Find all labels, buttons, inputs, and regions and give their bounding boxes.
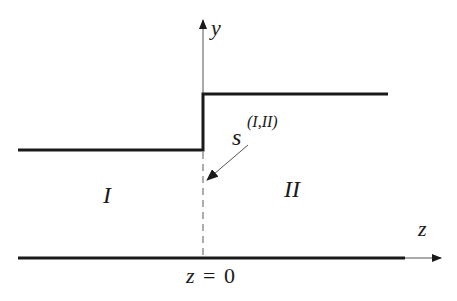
step-profile xyxy=(18,94,388,150)
diagram-svg: y z I II s (I,II) z = 0 xyxy=(0,0,457,301)
interface-pointer-arrow xyxy=(207,145,248,180)
position-label-eq: = xyxy=(203,263,215,288)
region-I-label: I xyxy=(102,182,112,208)
y-axis-label: y xyxy=(209,15,221,40)
interface-superscript: (I,II) xyxy=(247,113,278,131)
position-label-z: z xyxy=(185,263,195,288)
region-II-label: II xyxy=(283,176,301,202)
z-axis-label: z xyxy=(417,216,427,241)
interface-symbol: s xyxy=(232,124,241,150)
step-interface-diagram: y z I II s (I,II) z = 0 xyxy=(0,0,457,301)
position-label-zero: 0 xyxy=(224,263,235,288)
